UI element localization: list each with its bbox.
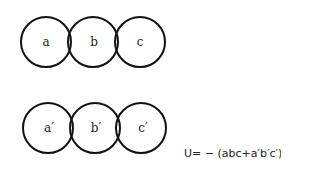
label-c: c bbox=[137, 35, 144, 49]
label-a-prime: a′ bbox=[44, 121, 54, 135]
label-a: a bbox=[42, 35, 49, 49]
top-row: a b c bbox=[21, 17, 165, 67]
label-b-prime: b′ bbox=[91, 121, 102, 135]
label-c-prime: c′ bbox=[138, 121, 148, 135]
equation: U= − (abc+a′b′c′) bbox=[184, 147, 281, 160]
label-b: b bbox=[90, 35, 98, 49]
bottom-row: a′ b′ c′ bbox=[23, 103, 166, 153]
